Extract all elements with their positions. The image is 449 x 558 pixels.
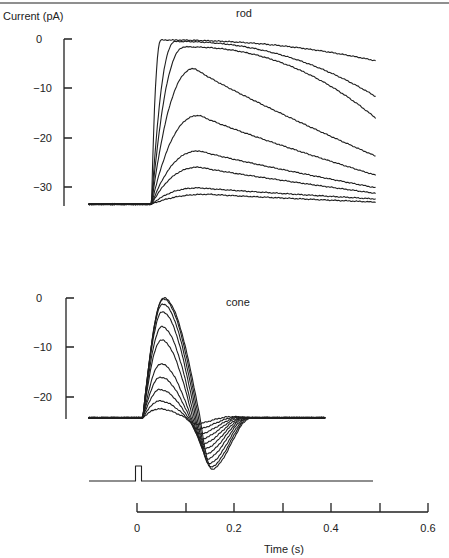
cone-trace (89, 389, 326, 434)
rod-trace (89, 46, 376, 205)
xtick-0: 0 (134, 522, 140, 534)
rod-trace (89, 188, 376, 205)
cone-trace (89, 377, 326, 439)
rod-trace (89, 115, 376, 204)
cone-ytick-10: −10 (33, 341, 52, 353)
rod-title: rod (236, 7, 252, 19)
rod-traces (89, 40, 376, 205)
xtick-0.2: 0.2 (226, 522, 241, 534)
cone-trace (89, 408, 326, 424)
cone-title: cone (226, 296, 250, 308)
figure: Current (pA) rod 0 −10 −20 −30 cone 0 −1… (0, 0, 449, 558)
xtick-0.4: 0.4 (323, 522, 338, 534)
xtick-0.6: 0.6 (420, 522, 435, 534)
time-axis: 0 0.2 0.4 0.6 Time (s) (134, 503, 436, 555)
cone-trace (89, 299, 326, 467)
cone-trace (89, 326, 326, 454)
rod-trace (89, 167, 376, 205)
rod-panel: Current (pA) rod 0 −10 −20 −30 (3, 7, 376, 206)
rod-trace (89, 68, 376, 204)
cone-ytick-20: −20 (33, 391, 52, 403)
rod-ytick-0: 0 (36, 33, 42, 45)
cone-traces (89, 298, 326, 470)
cone-y-axis (66, 298, 74, 419)
rod-y-axis-label: Current (pA) (3, 10, 64, 22)
rod-trace (89, 41, 376, 205)
x-axis-line (137, 503, 428, 512)
rod-y-axis (64, 39, 72, 206)
x-axis-label: Time (s) (264, 543, 304, 555)
rod-ytick-10: −10 (33, 82, 52, 94)
cone-trace (89, 304, 326, 464)
cone-panel: cone 0 −10 −20 (33, 292, 325, 469)
stimulus-trace (89, 466, 373, 481)
rod-ytick-20: −20 (33, 132, 52, 144)
cone-trace (89, 401, 326, 430)
rod-ytick-30: −30 (33, 181, 52, 193)
cone-ytick-0: 0 (36, 292, 42, 304)
